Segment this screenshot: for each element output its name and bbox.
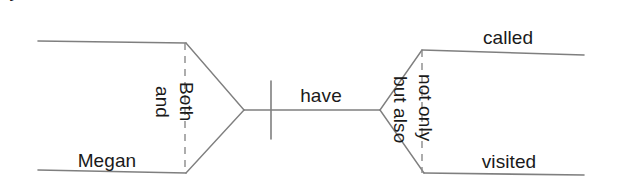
label-object-correlative: not only xyxy=(416,74,435,141)
object-top-line xyxy=(422,50,584,55)
label-object-conjunction: but also xyxy=(391,76,410,143)
label-verb: have xyxy=(300,86,342,105)
label-object-two: visited xyxy=(482,152,537,171)
sentence-diagram-canvas: Amy Megan called visited have and Both b… xyxy=(0,0,617,190)
label-subject-correlative: Both xyxy=(177,82,196,122)
label-subject-two: Megan xyxy=(78,151,137,170)
label-subject-conjunction: and xyxy=(153,86,172,118)
label-object-one: called xyxy=(483,28,533,47)
object-bottom-line xyxy=(424,173,584,175)
subject-top-line xyxy=(38,41,186,43)
